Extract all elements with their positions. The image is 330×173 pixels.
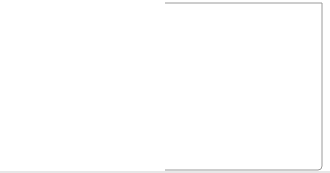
background xyxy=(0,0,330,173)
figure xyxy=(0,0,330,173)
